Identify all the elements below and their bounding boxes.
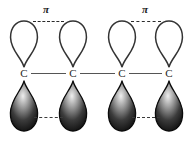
carbon-label-c2: C	[66, 68, 80, 79]
orbital-diagram: π π C C C C	[0, 0, 191, 144]
sigma-bond-c3-c4	[129, 73, 162, 74]
carbon-label-c3: C	[115, 68, 129, 79]
top-p-lobe-c1	[9, 20, 39, 68]
pi-overlap-top-c1-c2	[33, 21, 64, 22]
bottom-p-lobe-c4	[154, 80, 184, 132]
pi-label-1: π	[39, 4, 53, 15]
pi-overlap-bottom-c3-c4	[132, 117, 160, 118]
pi-overlap-top-c3-c4	[131, 21, 161, 22]
pi-overlap-bottom-c1-c2	[34, 117, 63, 118]
bottom-p-lobe-c3	[107, 80, 137, 132]
bottom-p-lobe-c1	[9, 80, 39, 132]
pi-label-2: π	[138, 4, 152, 15]
carbon-label-c4: C	[162, 68, 176, 79]
sigma-bond-c2-c3	[80, 73, 115, 74]
sigma-bond-c1-c2	[31, 73, 66, 74]
top-p-lobe-c3	[107, 20, 137, 68]
top-p-lobe-c2	[58, 20, 88, 68]
top-p-lobe-c4	[154, 20, 184, 68]
carbon-label-c1: C	[17, 68, 31, 79]
bottom-p-lobe-c2	[58, 80, 88, 132]
